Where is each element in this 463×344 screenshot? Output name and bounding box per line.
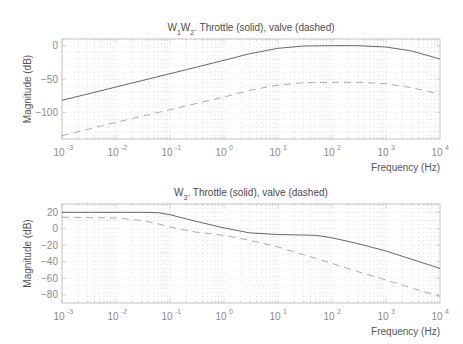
svg-text:-2: -2 (121, 308, 127, 315)
y-tick-label: −60 (41, 273, 58, 284)
y-tick-label: 0 (52, 223, 58, 234)
x-tick-label: 10 (215, 311, 227, 322)
svg-text:-3: -3 (67, 308, 73, 315)
x-tick-label: 10 (377, 147, 389, 158)
svg-text:2: 2 (337, 144, 341, 151)
y-tick-label: 20 (47, 207, 59, 218)
x-axis-label: Frequency (Hz) (371, 162, 440, 173)
x-tick-label: 10 (377, 311, 389, 322)
x-tick-label: 10 (215, 147, 227, 158)
svg-text:1: 1 (283, 308, 287, 315)
x-tick-label: 10 (53, 147, 65, 158)
y-tick-label: −40 (41, 256, 58, 267)
x-tick-label: 10 (269, 147, 281, 158)
svg-text:2: 2 (337, 308, 341, 315)
x-tick-label: 10 (161, 311, 173, 322)
svg-text:0: 0 (229, 144, 233, 151)
svg-text:0: 0 (229, 308, 233, 315)
svg-text:1: 1 (283, 144, 287, 151)
svg-text:3: 3 (391, 144, 395, 151)
chart-title: W3. Throttle (solid), valve (dashed) (174, 187, 328, 201)
x-tick-label: 10 (269, 311, 281, 322)
x-tick-label: 10 (161, 147, 173, 158)
x-tick-label: 10 (431, 147, 443, 158)
y-tick-label: −20 (41, 240, 58, 251)
x-tick-label: 10 (107, 147, 119, 158)
chart-title: W1W2. Throttle (solid), valve (dashed) (167, 22, 334, 36)
y-axis-label: Magnitude (dB) (22, 219, 33, 287)
svg-text:-3: -3 (67, 144, 73, 151)
svg-text:4: 4 (445, 308, 449, 315)
plot-w3: 200−20−40−60−8010-310-210-11001011021031… (22, 187, 449, 337)
y-tick-label: −100 (35, 107, 58, 118)
x-tick-label: 10 (107, 311, 119, 322)
figure: 0−50−10010-310-210-1100101102103104W1W2.… (0, 0, 463, 344)
svg-text:3: 3 (391, 308, 395, 315)
x-axis-label: Frequency (Hz) (371, 326, 440, 337)
grid (62, 39, 440, 139)
svg-text:4: 4 (445, 144, 449, 151)
x-tick-label: 10 (53, 311, 65, 322)
y-tick-label: 0 (52, 40, 58, 51)
x-tick-label: 10 (323, 311, 335, 322)
svg-text:-1: -1 (175, 144, 181, 151)
plot-w1w2: 0−50−10010-310-210-1100101102103104W1W2.… (22, 22, 449, 173)
x-tick-label: 10 (323, 147, 335, 158)
y-axis-label: Magnitude (dB) (22, 55, 33, 123)
x-tick-label: 10 (431, 311, 443, 322)
grid (62, 204, 440, 303)
y-tick-label: −80 (41, 289, 58, 300)
y-tick-label: −50 (41, 74, 58, 85)
svg-text:-2: -2 (121, 144, 127, 151)
svg-text:-1: -1 (175, 308, 181, 315)
